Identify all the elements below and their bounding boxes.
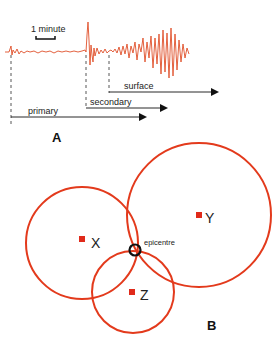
station-y-marker (196, 212, 202, 218)
seismic-diagram: 1 minute surface secondary primary A (0, 0, 280, 359)
triangulation-panel: X Y Z epicentre B (26, 143, 271, 333)
station-x-circle (26, 187, 138, 299)
secondary-label: secondary (90, 97, 132, 107)
scale-label: 1 minute (31, 24, 66, 34)
epicentre-label: epicentre (144, 238, 175, 247)
primary-label: primary (28, 106, 59, 116)
scale-bar (36, 36, 55, 39)
surface-arrow: surface (109, 81, 219, 96)
station-z-label: Z (140, 287, 149, 303)
panel-a-label: A (52, 130, 62, 145)
station-y-label: Y (205, 210, 215, 226)
station-x-marker (79, 236, 85, 242)
station-z-marker (129, 289, 135, 295)
secondary-arrow: secondary (86, 97, 168, 112)
panel-b-label: B (207, 318, 216, 333)
surface-label: surface (124, 81, 154, 91)
station-x-label: X (91, 235, 101, 251)
seismogram-panel: 1 minute surface secondary primary A (5, 22, 219, 145)
